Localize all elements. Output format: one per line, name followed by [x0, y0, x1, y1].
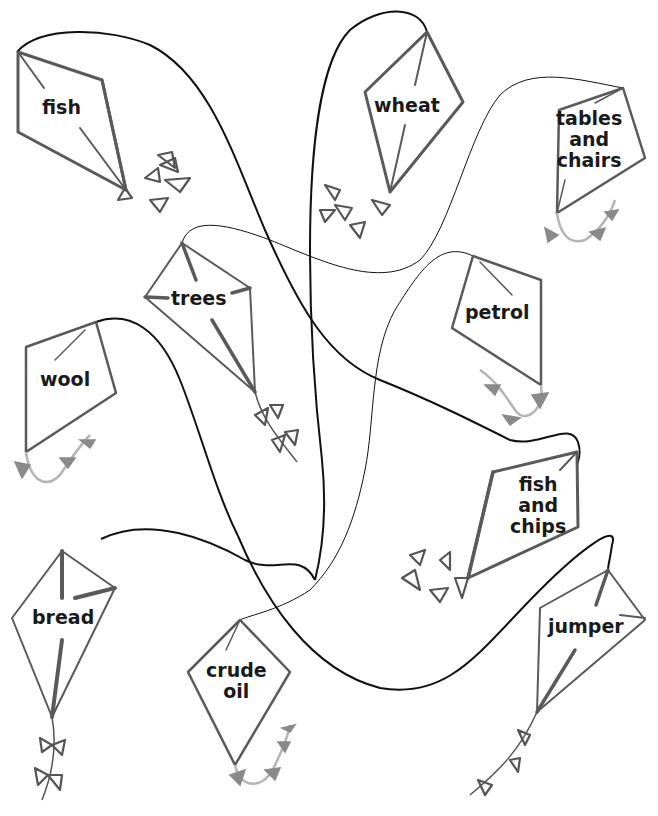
kite-fish — [18, 52, 190, 212]
kite-petrol — [452, 256, 548, 425]
string-jumper-loop — [238, 536, 613, 690]
kite-label-petrol: petrol — [465, 302, 530, 323]
kite-label-trees: trees — [171, 288, 227, 309]
string-fish-to-fish-and-chips — [17, 32, 580, 465]
label-line: oil — [206, 681, 267, 702]
label-line: and — [510, 495, 566, 516]
kite-label-fish-and-chips: fish and chips — [510, 474, 566, 537]
label-line: crude — [206, 660, 267, 681]
label-line: chairs — [556, 150, 622, 171]
kite-jumper — [470, 570, 645, 795]
kite-label-crude-oil: crude oil — [206, 660, 267, 702]
kite-wool — [15, 322, 116, 482]
label-line: chips — [510, 516, 566, 537]
kite-label-wheat: wheat — [374, 95, 440, 116]
label-line: fish — [510, 474, 566, 495]
kite-bread — [12, 551, 115, 800]
kite-crude-oil — [188, 620, 295, 785]
kite-label-bread: bread — [32, 607, 94, 628]
kite-label-fish: fish — [42, 97, 81, 118]
string-center-cross — [96, 319, 238, 536]
label-line: tables — [556, 108, 622, 129]
string-wheat-to-jumper-b — [101, 529, 315, 580]
kite-trees — [145, 243, 298, 462]
kite-label-wool: wool — [40, 369, 90, 390]
kite-label-tables-and-chairs: tables and chairs — [556, 108, 622, 171]
label-line: and — [556, 129, 622, 150]
kite-wheat — [320, 32, 463, 238]
kite-label-jumper: jumper — [548, 616, 624, 637]
